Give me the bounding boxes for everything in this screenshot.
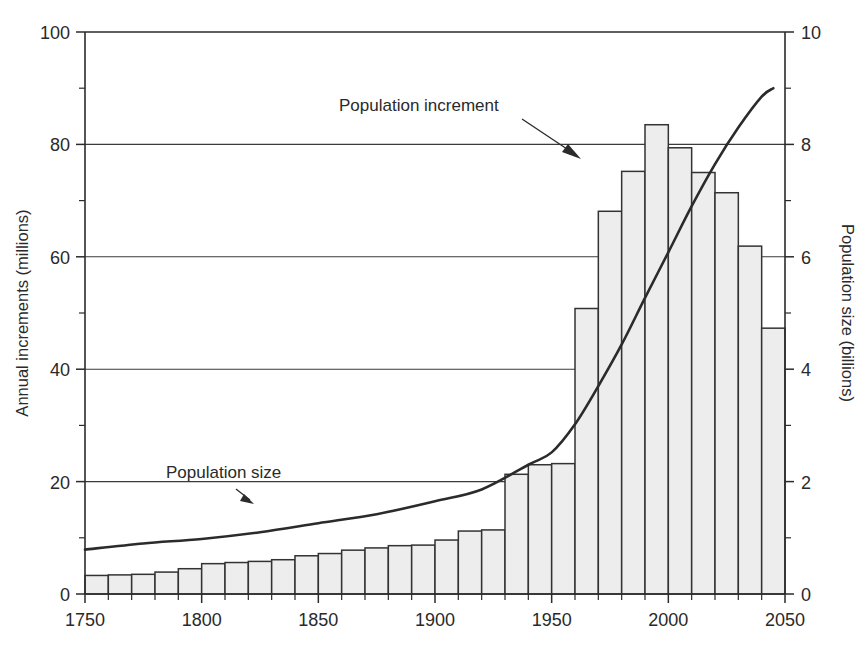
- tick-label-x-1850: 1850: [298, 610, 338, 630]
- bar-1960: [575, 309, 598, 594]
- bar-1860: [342, 550, 365, 594]
- bar-1900: [435, 540, 458, 594]
- tick-label-x-1950: 1950: [532, 610, 572, 630]
- bar-1770: [132, 574, 155, 594]
- bar-2030: [738, 246, 761, 594]
- left-axis-title: Annual increments (millions): [13, 209, 31, 416]
- tick-label-right-8: 8: [801, 135, 811, 155]
- tick-label-right-10: 10: [801, 23, 821, 43]
- annotation-increment-label: Population increment: [339, 96, 499, 115]
- chart-figure: 0204060801000246810175018001850190019502…: [0, 0, 865, 647]
- tick-label-left-60: 60: [50, 248, 70, 268]
- bar-1910: [458, 531, 481, 594]
- tick-label-x-2050: 2050: [765, 610, 805, 630]
- bar-1870: [365, 548, 388, 594]
- annotation-size-label: Population size: [166, 463, 281, 482]
- tick-label-x-1900: 1900: [415, 610, 455, 630]
- bar-1850: [318, 554, 341, 594]
- bar-1830: [272, 560, 295, 594]
- bar-1940: [528, 465, 551, 594]
- bar-1930: [505, 474, 528, 594]
- bar-1780: [155, 572, 178, 594]
- bar-2020: [715, 193, 738, 594]
- tick-label-right-2: 2: [801, 473, 811, 493]
- tick-label-left-0: 0: [60, 585, 70, 605]
- bar-1890: [412, 545, 435, 594]
- bar-1880: [388, 546, 411, 594]
- tick-label-right-6: 6: [801, 248, 811, 268]
- bar-1920: [482, 530, 505, 594]
- tick-label-left-80: 80: [50, 135, 70, 155]
- tick-label-x-1800: 1800: [182, 610, 222, 630]
- bar-2010: [692, 173, 715, 595]
- bar-2040: [762, 328, 785, 594]
- bar-1810: [225, 563, 248, 594]
- bar-1800: [202, 564, 225, 594]
- tick-label-left-40: 40: [50, 360, 70, 380]
- tick-label-x-2000: 2000: [648, 610, 688, 630]
- bar-1980: [622, 171, 645, 594]
- bar-1950: [552, 464, 575, 594]
- bar-1840: [295, 556, 318, 594]
- tick-label-x-1750: 1750: [65, 610, 105, 630]
- tick-label-right-0: 0: [801, 585, 811, 605]
- bar-1760: [108, 575, 131, 594]
- tick-label-left-100: 100: [40, 23, 70, 43]
- bar-1820: [248, 561, 271, 594]
- tick-label-right-4: 4: [801, 360, 811, 380]
- bar-1750: [85, 575, 108, 594]
- population-growth-chart: 0204060801000246810175018001850190019502…: [0, 0, 865, 647]
- right-axis-title: Population size (billions): [839, 224, 857, 402]
- tick-label-left-20: 20: [50, 473, 70, 493]
- bar-1970: [598, 211, 621, 594]
- bar-1790: [178, 569, 201, 594]
- bar-1990: [645, 125, 668, 594]
